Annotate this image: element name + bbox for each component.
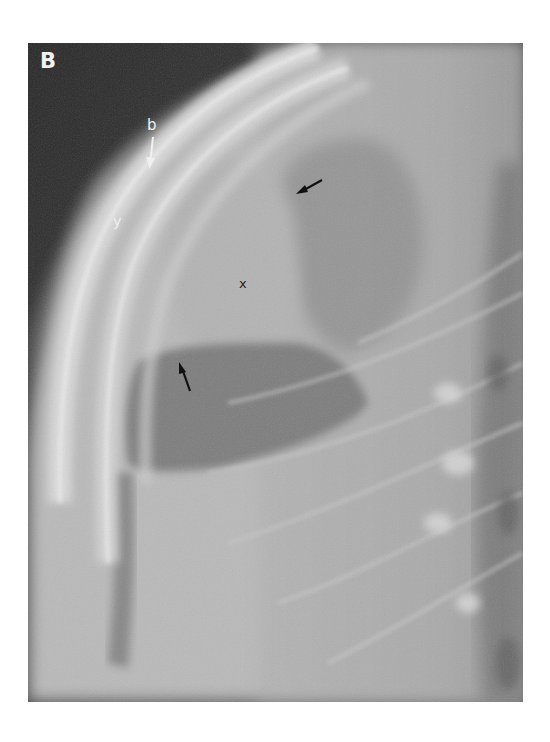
radiograph-image — [28, 43, 523, 702]
film-grain — [28, 43, 523, 702]
label-b: b — [147, 118, 157, 133]
radiograph-figure: B b y x — [28, 43, 523, 702]
label-y: y — [113, 214, 121, 228]
panel-letter: B — [40, 51, 56, 72]
label-x: x — [239, 277, 247, 290]
